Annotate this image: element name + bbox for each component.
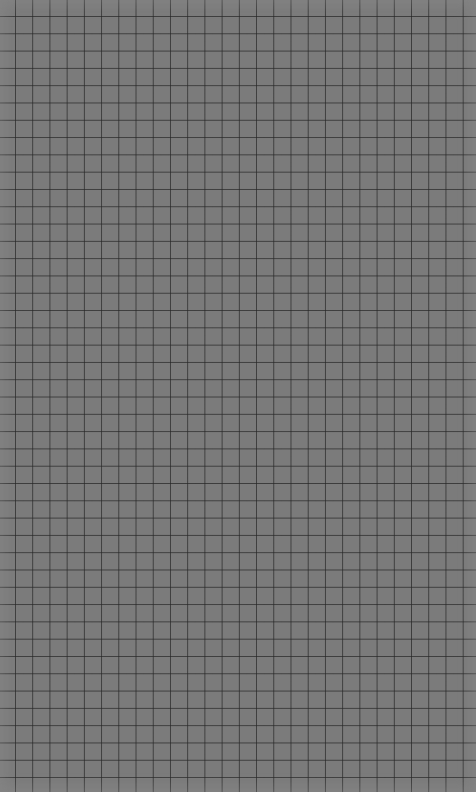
grid-paper-sheet — [0, 0, 476, 792]
edge-vignette — [0, 0, 476, 792]
